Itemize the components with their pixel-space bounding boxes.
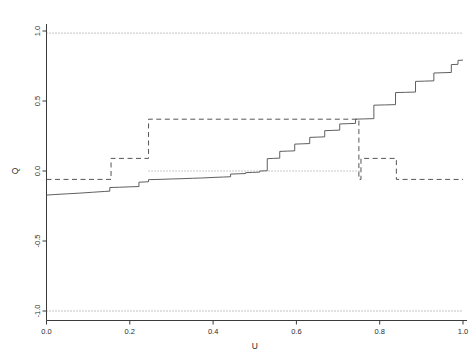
y-tick-label-0: -1.0 <box>33 305 42 318</box>
quantile-step-plot: 0.00.20.40.60.81.0-1.0-0.50.00.51.0 UQ <box>0 0 473 361</box>
chart-figure: 0.00.20.40.60.81.0-1.0-0.50.00.51.0 UQ <box>0 0 473 361</box>
y-tick-label-3: 0.5 <box>33 96 42 106</box>
x-axis-title: U <box>252 341 258 351</box>
x-tick-label-3: 0.6 <box>291 327 301 336</box>
y-tick-label-1: -0.5 <box>33 235 42 248</box>
series-fitted-quantile-step-dashed <box>47 119 464 179</box>
x-tick-label-0: 0.0 <box>41 327 51 336</box>
axis-tick-labels-group: 0.00.20.40.60.81.0-1.0-0.50.00.51.0 <box>33 26 468 336</box>
axis-ticks-group <box>43 31 464 325</box>
x-tick-label-4: 0.8 <box>374 327 384 336</box>
x-tick-label-1: 0.2 <box>125 327 135 336</box>
x-tick-label-2: 0.4 <box>208 327 218 336</box>
series-empirical-quantile-step-curve <box>47 60 464 195</box>
data-series-group <box>47 33 464 311</box>
y-axis-title: Q <box>10 167 20 174</box>
y-tick-label-2: 0.0 <box>33 166 42 176</box>
x-tick-label-5: 1.0 <box>458 327 468 336</box>
y-tick-label-4: 1.0 <box>33 26 42 36</box>
